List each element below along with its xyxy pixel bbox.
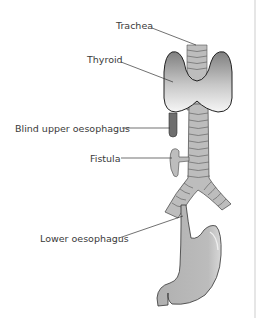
- diagram-canvas: Trachea Thyroid Blind upper oesophagus F…: [0, 0, 261, 318]
- lower-oesophagus-and-stomach: [157, 205, 221, 306]
- fistula: [170, 149, 189, 177]
- blind-upper-oesophagus: [169, 113, 177, 137]
- label-trachea: Trachea: [116, 20, 153, 31]
- trachea-leader-line: [152, 28, 196, 45]
- label-lower-oesophagus: Lower oesophagus: [40, 233, 129, 244]
- label-thyroid: Thyroid: [87, 54, 123, 65]
- anatomy-illustration: [0, 0, 261, 318]
- label-blind-upper-oesophagus: Blind upper oesophagus: [15, 123, 130, 134]
- label-fistula: Fistula: [90, 153, 121, 164]
- page-edge-divider: [254, 0, 256, 318]
